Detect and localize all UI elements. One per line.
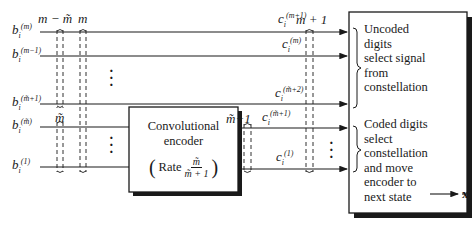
input-label-b-m: bi(m) [12,23,32,40]
mapper-uncoded-text: Uncoded digits select signal from conste… [364,22,428,95]
rate-word: Rate [159,160,182,175]
group-label-m: m [78,12,87,25]
close-paren: ) [211,160,218,175]
mapper-coded-text: Coded digits select constellation and mo… [364,117,428,204]
encoder-label: Convolutional encoder ( Rate m̃ m̃ + 1 ) [129,119,238,179]
output-label-c-mt-plus-2: ci(m̃+2) [275,86,304,103]
ellipsis-encoder-inputs: ··· [109,135,114,156]
input-label-b-m-minus-1: bi(m−1) [12,47,41,64]
ellipsis-uncoded: ··· [109,68,114,89]
output-label-c-m-plus-1: ci(m+1) [278,12,307,29]
ellipsis-encoder-outputs: ··· [329,140,334,161]
output-label-c-mt-plus-1: ci(m̃+1) [262,110,291,127]
group-label-m-minus-mt: m − m̃ [38,12,72,25]
input-label-b-mt-plus-1: bi(m̃+1) [12,95,41,112]
output-label-c-m: ci(m) [282,37,301,54]
output-label-c-1: ci(1) [276,150,293,167]
output-label-x: xi [462,187,471,204]
open-paren: ( [149,160,156,175]
input-label-b-mt: bi(m̃) [12,118,32,135]
input-label-b-1: bi(1) [12,158,30,175]
encoder-input-lines [40,127,129,167]
rate-fraction: m̃ m̃ + 1 [184,156,208,179]
group-label-mt: m̃ [55,111,64,124]
